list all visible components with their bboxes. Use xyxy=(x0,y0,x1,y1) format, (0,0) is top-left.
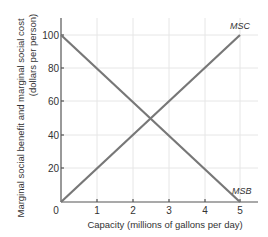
msc-label: MSC xyxy=(230,21,251,31)
msb-label: MSB xyxy=(232,186,252,196)
y-axis-title-line1: Marginal social benefit and marginal soc… xyxy=(15,18,26,217)
svg-text:3: 3 xyxy=(166,205,172,216)
svg-text:100: 100 xyxy=(42,30,59,41)
svg-text:2: 2 xyxy=(130,205,136,216)
y-tick-labels: 100 80 60 40 20 xyxy=(42,30,59,174)
svg-text:5: 5 xyxy=(237,205,243,216)
svg-text:40: 40 xyxy=(48,130,60,141)
svg-text:4: 4 xyxy=(202,205,208,216)
svg-text:80: 80 xyxy=(48,63,60,74)
svg-text:0: 0 xyxy=(53,205,59,216)
chart-svg: MSC MSB 100 80 60 40 20 0 1 2 3 4 5 Capa… xyxy=(0,0,268,237)
chart: MSC MSB 100 80 60 40 20 0 1 2 3 4 5 Capa… xyxy=(0,0,268,237)
x-axis-title: Capacity (millions of gallons per day) xyxy=(87,219,242,230)
svg-text:1: 1 xyxy=(94,205,100,216)
svg-text:60: 60 xyxy=(48,96,60,107)
y-axis-title-line2: (dollars per person) xyxy=(27,14,38,96)
x-tick-labels: 0 1 2 3 4 5 xyxy=(53,205,243,216)
svg-text:20: 20 xyxy=(48,163,60,174)
